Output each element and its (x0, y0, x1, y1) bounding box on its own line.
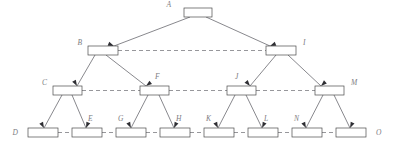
edge-m-n (306, 95, 323, 128)
node-box-c[interactable] (53, 86, 82, 95)
edge-c-e (72, 95, 86, 128)
node-box-g[interactable] (116, 128, 146, 137)
parent-child-edge-layer (44, 17, 350, 128)
edge-c-d (44, 95, 62, 128)
node-label-b: B (77, 38, 82, 47)
arrowhead-layer (39, 42, 354, 135)
node-label-l: L (263, 114, 268, 123)
node-label-o: O (376, 128, 382, 137)
node-label-a: A (165, 0, 171, 9)
node-box-layer (28, 8, 366, 137)
edge-a-b (114, 17, 190, 46)
edge-a-i (206, 17, 270, 46)
node-box-a[interactable] (184, 8, 212, 17)
node-label-m: M (350, 78, 358, 87)
node-label-h: H (175, 114, 182, 123)
edge-f-h (159, 95, 174, 128)
node-label-e: E (87, 114, 93, 123)
edge-b-f (106, 55, 146, 86)
node-box-f[interactable] (140, 86, 169, 95)
edge-i-j (250, 55, 276, 86)
node-label-i: I (302, 38, 306, 47)
node-box-e[interactable] (72, 128, 102, 137)
node-box-i[interactable] (266, 46, 296, 55)
node-label-n: N (293, 114, 300, 123)
node-box-l[interactable] (248, 128, 278, 137)
edge-j-l (246, 95, 262, 128)
node-label-j: J (235, 72, 239, 81)
node-label-f: F (154, 72, 160, 81)
node-box-h[interactable] (160, 128, 190, 137)
node-box-m[interactable] (315, 86, 344, 95)
node-box-j[interactable] (227, 86, 256, 95)
edge-j-k (218, 95, 235, 128)
node-box-k[interactable] (204, 128, 234, 137)
node-label-k: K (205, 114, 212, 123)
edge-f-g (131, 95, 148, 128)
node-label-layer: ABICFJMDEGHKLNO (12, 0, 382, 137)
edge-b-c (77, 55, 95, 86)
edge-m-o (334, 95, 350, 128)
node-box-b[interactable] (88, 46, 118, 55)
node-label-d: D (12, 128, 19, 137)
tree-diagram: ABICFJMDEGHKLNO (0, 0, 395, 146)
node-label-c: C (42, 78, 48, 87)
tree-diagram-canvas: ABICFJMDEGHKLNO (0, 0, 395, 146)
edge-i-m (288, 55, 321, 86)
node-box-d[interactable] (28, 128, 58, 137)
node-label-g: G (118, 114, 124, 123)
node-box-o[interactable] (336, 128, 366, 137)
node-box-n[interactable] (292, 128, 322, 137)
